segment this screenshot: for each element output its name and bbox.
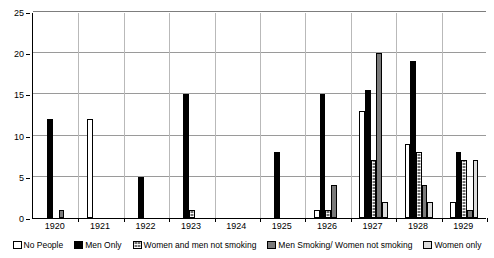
legend-swatch-no-people bbox=[13, 241, 22, 249]
y-axis-tick-label: 25 bbox=[14, 8, 24, 18]
legend-item[interactable]: Women only bbox=[423, 241, 481, 250]
bar bbox=[320, 94, 326, 218]
y-axis-tick bbox=[26, 13, 30, 14]
legend-item[interactable]: Men Only bbox=[74, 241, 121, 250]
plot-area bbox=[32, 13, 486, 219]
bar bbox=[47, 119, 53, 218]
bar bbox=[183, 94, 189, 218]
y-axis-tick bbox=[26, 54, 30, 55]
bar bbox=[87, 119, 93, 218]
legend-swatch-women-only bbox=[423, 241, 432, 249]
legend-label: Men Smoking/ Women not smoking bbox=[278, 241, 412, 250]
category-separator bbox=[124, 13, 125, 218]
y-axis-tick bbox=[26, 137, 30, 138]
y-axis-tick-label: 5 bbox=[19, 173, 24, 183]
bar bbox=[274, 152, 280, 218]
category-separator bbox=[215, 13, 216, 218]
bars-layer bbox=[33, 13, 486, 218]
bar bbox=[331, 185, 337, 218]
y-axis-tick-label: 15 bbox=[14, 90, 24, 100]
legend-swatch-women-and-men-not-smoking bbox=[133, 241, 142, 249]
x-axis-tick-label: 1922 bbox=[135, 221, 155, 231]
x-axis-tick-label: 1926 bbox=[317, 221, 337, 231]
x-axis-tick-label: 1920 bbox=[45, 221, 65, 231]
bar bbox=[382, 202, 388, 218]
y-axis-tick-label: 20 bbox=[14, 49, 24, 59]
bar bbox=[189, 210, 195, 218]
gridline-25 bbox=[33, 11, 486, 12]
x-axis-tick-label: 1921 bbox=[90, 221, 110, 231]
legend-label: Women only bbox=[434, 241, 481, 250]
y-axis: 0510152025 bbox=[0, 13, 30, 219]
y-axis-tick bbox=[26, 95, 30, 96]
legend: No PeopleMen OnlyWomen and men not smoki… bbox=[0, 237, 494, 253]
bar bbox=[138, 177, 144, 218]
y-axis-tick-label: 0 bbox=[19, 214, 24, 224]
x-axis: 1920192119221923192419251926192719281929 bbox=[32, 221, 486, 235]
y-axis-tick-label: 10 bbox=[14, 132, 24, 142]
legend-item[interactable]: Women and men not smoking bbox=[133, 241, 257, 250]
y-axis-tick bbox=[26, 219, 30, 220]
legend-item[interactable]: No People bbox=[13, 241, 64, 250]
category-separator bbox=[78, 13, 79, 218]
category-separator bbox=[442, 13, 443, 218]
bar bbox=[376, 53, 382, 218]
x-axis-tick-label: 1929 bbox=[453, 221, 473, 231]
x-axis-tick-label: 1925 bbox=[272, 221, 292, 231]
category-separator bbox=[351, 13, 352, 218]
legend-swatch-men-smoking-women-not-smoking bbox=[267, 241, 276, 249]
category-separator bbox=[305, 13, 306, 218]
bar bbox=[427, 202, 433, 218]
y-axis-tick bbox=[26, 178, 30, 179]
legend-swatch-men-only bbox=[74, 241, 83, 249]
bar bbox=[59, 210, 65, 218]
legend-label: No People bbox=[24, 241, 64, 250]
x-axis-tick-label: 1923 bbox=[181, 221, 201, 231]
x-axis-tick-label: 1927 bbox=[362, 221, 382, 231]
bar bbox=[473, 160, 479, 218]
bar-chart: 0510152025 19201921192219231924192519261… bbox=[0, 0, 494, 258]
legend-label: Women and men not smoking bbox=[144, 241, 257, 250]
category-separator bbox=[396, 13, 397, 218]
legend-item[interactable]: Men Smoking/ Women not smoking bbox=[267, 241, 412, 250]
category-separator bbox=[260, 13, 261, 218]
x-axis-tick-label: 1928 bbox=[408, 221, 428, 231]
x-axis-tick-label: 1924 bbox=[226, 221, 246, 231]
x-axis-tick bbox=[487, 218, 488, 222]
category-separator bbox=[169, 13, 170, 218]
legend-label: Men Only bbox=[85, 241, 121, 250]
